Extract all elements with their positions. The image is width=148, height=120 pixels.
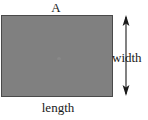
rectangle-shape [1,15,113,97]
width-label: width [112,49,148,66]
rectangle-area-diagram: A width length [0,0,148,120]
area-label: A [44,0,68,15]
length-label: length [24,99,92,116]
